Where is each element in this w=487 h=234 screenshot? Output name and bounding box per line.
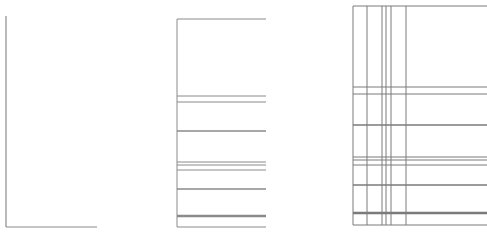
diagram-svg — [0, 0, 487, 234]
diagram-canvas — [0, 0, 487, 234]
